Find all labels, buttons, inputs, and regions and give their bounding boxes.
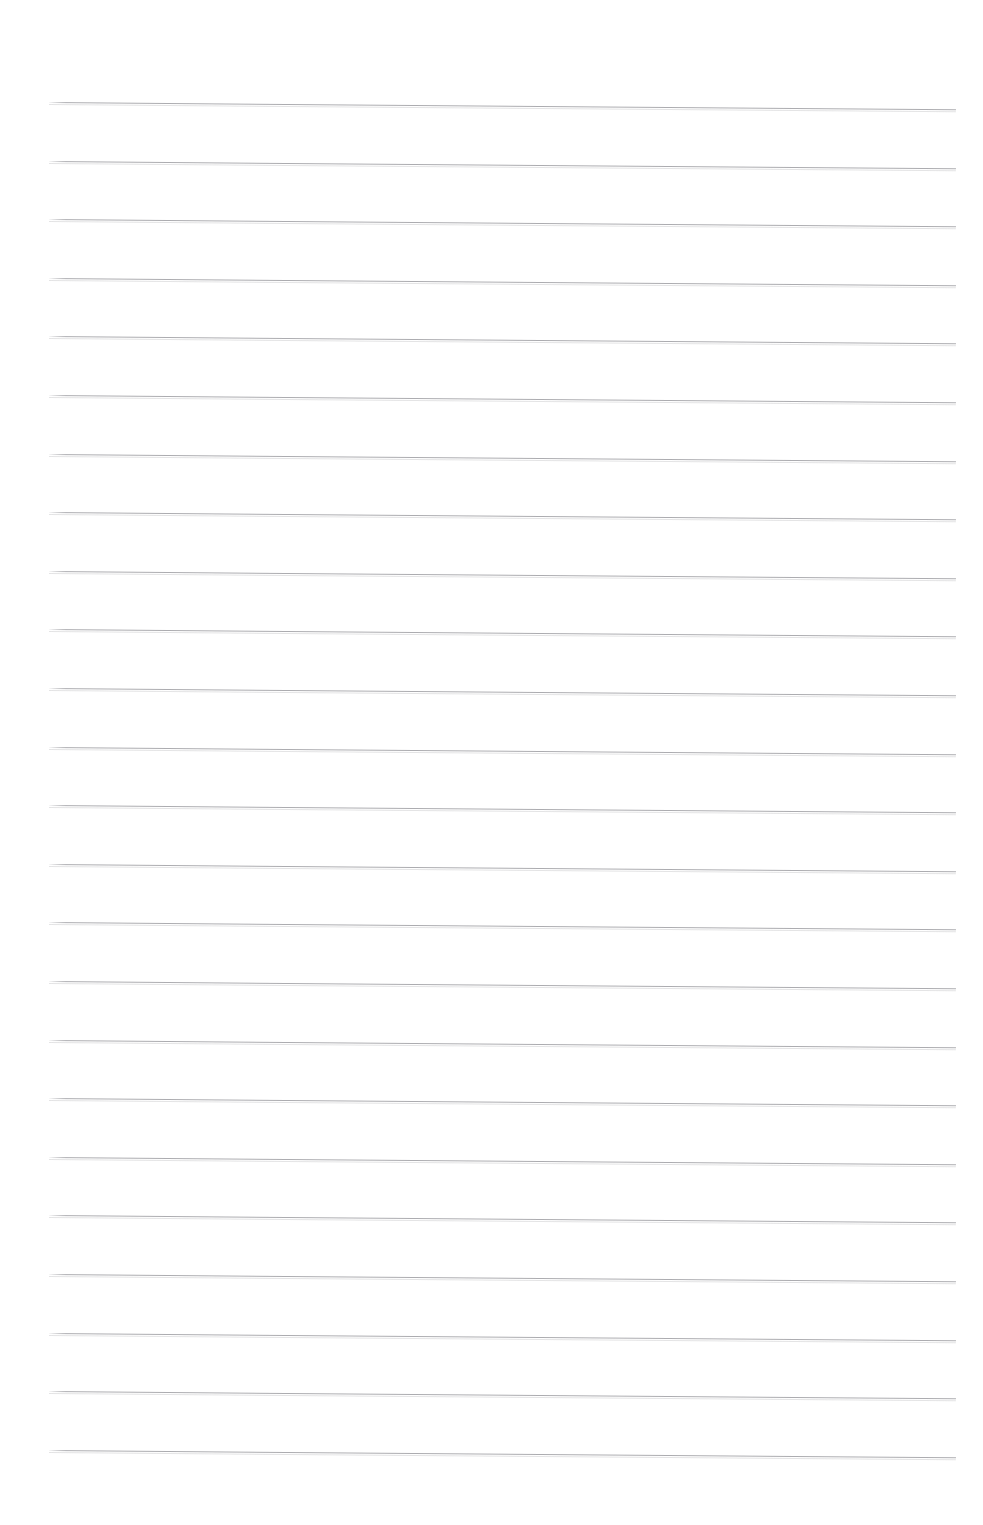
scanned-page — [0, 0, 983, 1525]
page-text-layer — [0, 0, 983, 1525]
